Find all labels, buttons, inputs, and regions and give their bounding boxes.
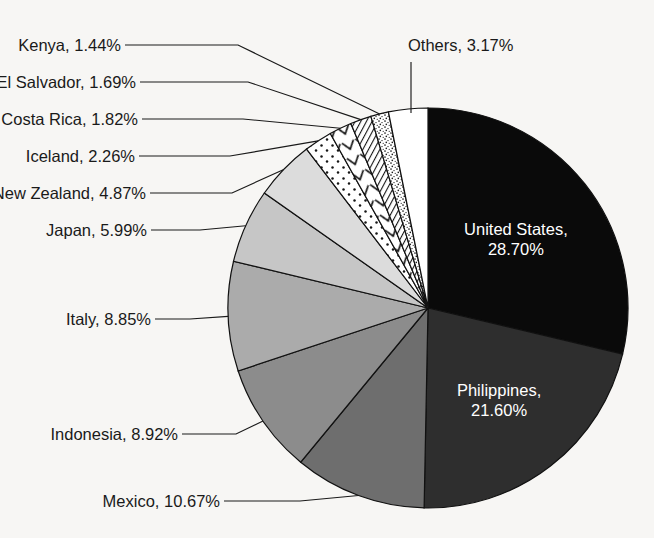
pie-chart-figure: Kenya, 1.44%El Salvador, 1.69%Costa Rica… xyxy=(0,0,654,538)
pie-slices xyxy=(228,108,628,508)
callout-label-new-zealand: New Zealand, 4.87% xyxy=(0,184,146,202)
callout-label-kenya: Kenya, 1.44% xyxy=(18,36,121,54)
callout-label-el-salvador: El Salvador, 1.69% xyxy=(0,73,136,91)
pie-chart-svg: Kenya, 1.44%El Salvador, 1.69%Costa Rica… xyxy=(0,0,654,538)
callout-label-iceland: Iceland, 2.26% xyxy=(26,147,135,165)
callout-label-mexico: Mexico, 10.67% xyxy=(103,492,221,510)
callout-label-indonesia: Indonesia, 8.92% xyxy=(50,425,178,443)
callout-label-japan: Japan, 5.99% xyxy=(46,221,147,239)
callout-label-costa-rica: Costa Rica, 1.82% xyxy=(1,110,138,128)
callout-label-others: Others, 3.17% xyxy=(408,36,514,54)
callout-label-italy: Italy, 8.85% xyxy=(66,310,151,328)
